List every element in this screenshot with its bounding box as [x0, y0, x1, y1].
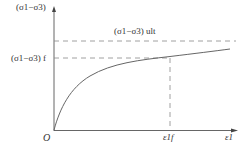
- plot-graphics: [0, 0, 241, 146]
- y-axis-arrow-icon: [52, 6, 56, 12]
- y-axis-label: (σ1−σ3): [16, 3, 46, 12]
- ultimate-stress-label: (σ1−σ3) ult: [114, 27, 156, 36]
- stress-strain-curve: [54, 49, 230, 130]
- stress-strain-diagram: (σ1−σ3) (σ1−σ3) f (σ1−σ3) ult O ε1f ε1: [0, 0, 241, 146]
- origin-label: O: [43, 133, 50, 143]
- failure-strain-label: ε1f: [163, 133, 174, 142]
- failure-stress-label: (σ1−σ3) f: [11, 54, 46, 63]
- x-axis-label: ε1: [225, 133, 233, 142]
